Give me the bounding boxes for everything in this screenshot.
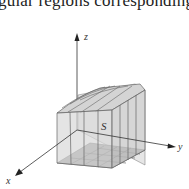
y-axis-label: y bbox=[177, 141, 183, 152]
z-axis-label: z bbox=[83, 31, 88, 42]
x-axis-label: x bbox=[5, 175, 11, 186]
solid-label: S bbox=[101, 120, 107, 132]
solid-S: S bbox=[57, 84, 145, 168]
solid-diagram: z S y x bbox=[0, 0, 189, 189]
